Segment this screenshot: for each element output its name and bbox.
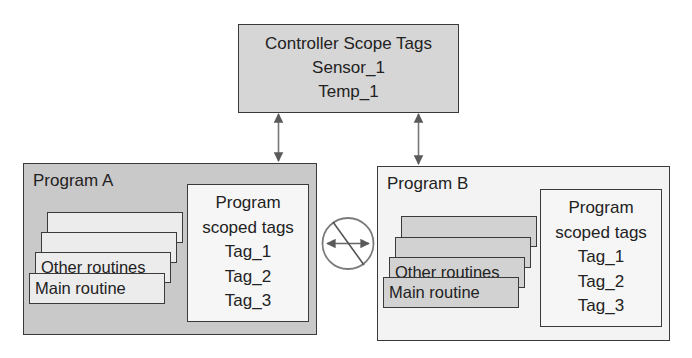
- controller-scope-tags-box: Controller Scope Tags Sensor_1 Temp_1: [238, 24, 459, 113]
- tags-box-title: Program: [188, 191, 308, 216]
- program-tag: Tag_2: [541, 270, 661, 295]
- controller-title: Controller Scope Tags: [239, 32, 458, 56]
- controller-tag: Sensor_1: [239, 56, 458, 80]
- program-tag: Tag_2: [188, 265, 308, 290]
- controller-tag: Temp_1: [239, 80, 458, 104]
- prohibited-link-icon: [323, 218, 374, 269]
- program-tag: Tag_1: [541, 245, 661, 270]
- program-b-title: Program B: [387, 174, 468, 194]
- program-a-title: Program A: [33, 171, 113, 191]
- tags-box-title: scoped tags: [188, 216, 308, 241]
- program-b-scoped-tags-box: Program scoped tags Tag_1 Tag_2 Tag_3: [540, 189, 662, 327]
- tags-box-title: Program: [541, 196, 661, 221]
- program-tag: Tag_3: [188, 289, 308, 314]
- program-tag: Tag_1: [188, 240, 308, 265]
- tags-box-title: scoped tags: [541, 221, 661, 246]
- program-a-main-routine: Main routine: [29, 273, 165, 304]
- program-tag: Tag_3: [541, 294, 661, 319]
- program-a-scoped-tags-box: Program scoped tags Tag_1 Tag_2 Tag_3: [187, 184, 309, 322]
- program-b-main-routine: Main routine: [383, 277, 519, 308]
